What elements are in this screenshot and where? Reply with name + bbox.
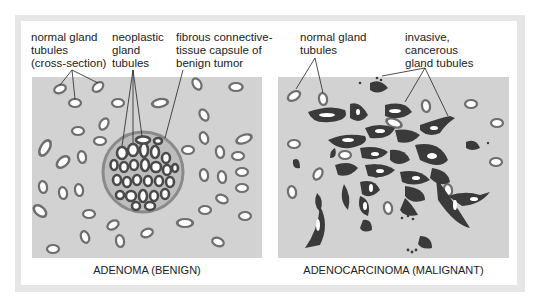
diagram-illustration [0, 0, 541, 306]
invasive-cancer-tubules [293, 81, 490, 248]
caption-adenoma: ADENOMA (BENIGN) [32, 264, 262, 276]
caption-adenocarcinoma: ADENOCARCINOMA (MALIGNANT) [278, 264, 509, 276]
adenoma-capsule [103, 132, 183, 212]
